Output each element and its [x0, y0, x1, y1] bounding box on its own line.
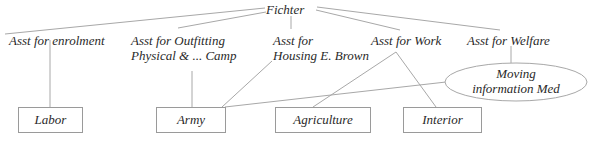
node-label-line1: Asst for enrolment: [9, 33, 105, 48]
edge-housing-army: [222, 61, 272, 107]
node-asst-enrolment: Asst for enrolment: [9, 33, 105, 48]
ellipse-label-line2: information Med: [446, 81, 586, 96]
box-agriculture: Agriculture: [275, 107, 371, 133]
edge-ellipse-army: [225, 82, 446, 107]
root-node-fichter: Fichter: [266, 2, 316, 17]
box-label: Labor: [35, 112, 67, 128]
edge-work-interior: [396, 52, 436, 107]
node-asst-welfare: Asst for Welfare: [467, 33, 550, 48]
box-label: Agriculture: [293, 112, 352, 128]
node-label-line1: Asst for Welfare: [467, 33, 550, 48]
node-label-line2: Physical & ... Camp: [131, 48, 236, 63]
edge-fichter-outfitting: [178, 12, 266, 28]
edge-fichter-enrolment: [5, 8, 265, 34]
ellipse-label-line1: Moving: [446, 66, 586, 81]
node-asst-work: Asst for Work: [371, 33, 441, 48]
box-label: Interior: [422, 112, 462, 128]
node-asst-outfitting: Asst for Outfitting Physical & ... Camp: [131, 33, 236, 63]
box-army: Army: [156, 107, 226, 133]
edge-fichter-welfare: [317, 7, 500, 30]
edge-fichter-work: [316, 10, 400, 30]
box-label: Army: [177, 112, 205, 128]
node-asst-housing: Asst for Housing E. Brown: [273, 33, 369, 63]
box-interior: Interior: [403, 107, 482, 133]
box-labor: Labor: [18, 107, 83, 133]
node-label-line1: Asst for Outfitting: [131, 33, 236, 48]
node-label-line1: Asst for Work: [371, 33, 441, 48]
node-moving-information-med: Moving information Med: [446, 66, 586, 96]
node-label-line2: Housing E. Brown: [273, 48, 369, 63]
root-label: Fichter: [266, 2, 304, 17]
node-label-line1: Asst for: [273, 33, 369, 48]
